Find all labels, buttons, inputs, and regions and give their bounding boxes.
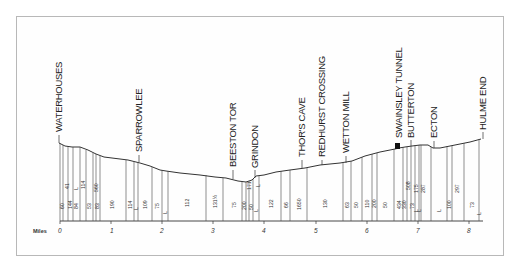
tick-label: 8 [467,227,471,234]
station-butterton: BUTTERTON [405,83,416,138]
tick-label: 7 [416,227,420,234]
station-waterhouses: WATERHOUSES [53,62,64,132]
gradient-label: 100 [446,200,452,209]
station-sparrowlee: SPARROWLEE [133,89,144,152]
station-hulme-end: HULME END [477,76,488,130]
gradient-label: 66 [283,202,289,208]
gradient-label: L [73,187,79,190]
gradient-label: 287 [420,184,426,193]
tick-label: 5 [314,227,318,234]
gradient-label: 73 [469,202,475,208]
tick-label: 0 [58,227,62,234]
axis-label-miles: Miles [33,228,47,234]
station-thors-cave: THOR'S CAVE [296,97,307,157]
station-grindon: GRINDON [249,125,260,168]
gradient-label: L [436,209,442,212]
gradient-label: 297 [454,184,460,193]
gradient-label: 171 [246,181,252,190]
gradient-label: L [476,212,482,215]
tick-label: 2 [159,227,164,234]
gradient-label: 75 [231,202,237,208]
gradient-label: L [162,211,168,214]
station-wetton-mill: WETTON MILL [340,92,351,153]
tick-label: 3 [211,227,215,234]
gradient-label: 200 [371,199,377,208]
gradient-label: 50 [382,202,388,208]
gradient-label: 114 [80,181,86,189]
gradient-label: 130 [322,199,328,208]
gradient-label: 50 [353,202,359,208]
gradient-label: 60 [59,203,65,209]
station-redhurst-crossing: REDHURST CROSSING [316,56,327,157]
gradient-label: L [255,184,261,187]
gradient-profile: WATERHOUSES SPARROWLEE BEESTON TOR GRIND… [0,0,519,266]
gradient-label: 175 [413,184,419,193]
gradient-label: 122 [268,199,274,208]
gradient-label: 84 [73,203,79,209]
gradient-label: 190 [109,200,115,209]
tick-label: 1 [110,227,114,234]
tick-label: 6 [365,227,369,234]
station-ecton: ECTON [428,106,439,138]
profile-line [59,139,481,182]
tick-label: 4 [262,227,266,234]
gradient-label: 41 [64,183,70,189]
gradient-label: 75 [154,203,160,209]
station-beeston-tor: BEESTON TOR [227,102,238,167]
gradient-label: L [413,209,419,212]
axis-tick-labels: 0 1 2 3 4 5 6 7 8 [58,227,471,234]
gradient-label: L [133,207,139,210]
gradient-label: 112 [184,199,190,207]
gradient-label: 560 [93,183,99,192]
gradient-label: 110 [364,200,370,208]
gradient-label: 200 [241,201,247,210]
gradient-label: 1650 [296,198,302,210]
gradient-label: 53 [86,203,92,209]
swainsley-tunnel-marker [395,143,400,149]
gradient-label: 63 [344,202,350,208]
station-swainsley-tunnel: SWAINSLEY TUNNEL [393,47,404,138]
gradient-label: 508 [405,181,411,190]
gradient-label: 330 [401,200,407,209]
gradient-label: 131½ [212,194,218,208]
gradient-label: 109 [142,200,148,209]
gradient-label: L [253,209,259,212]
gradient-label: 73 [409,203,415,209]
gradient-label: 83 [94,203,100,209]
